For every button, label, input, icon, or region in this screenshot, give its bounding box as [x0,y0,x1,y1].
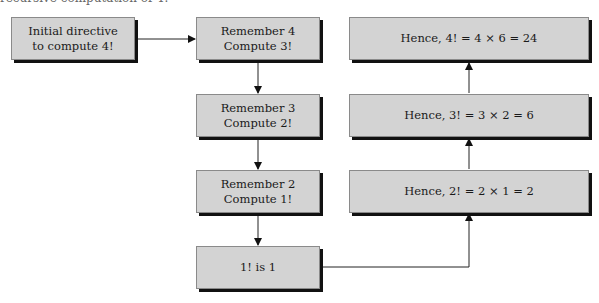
base-case-box: 1! is 1 [196,246,320,289]
result2-box: Hence, 2! = 2 × 1 = 2 [349,170,589,213]
box-line: Compute 3! [221,39,296,54]
remember3-box: Remember 3 Compute 2! [196,94,320,137]
remember2-box: Remember 2 Compute 1! [196,170,320,213]
result4-box: Hence, 4! = 4 × 6 = 24 [349,17,589,60]
box-line: Initial directive [28,24,118,39]
remember4-box: Remember 4 Compute 3! [196,17,320,60]
box-line: to compute 4! [28,39,118,54]
box-line: 1! is 1 [240,260,276,275]
result3-box: Hence, 3! = 3 × 2 = 6 [349,94,589,137]
box-line: Compute 2! [221,116,296,131]
initial-directive-box: Initial directive to compute 4! [11,17,135,60]
box-line: Hence, 3! = 3 × 2 = 6 [404,108,534,123]
box-line: Compute 1! [221,192,296,207]
box-line: Remember 2 [221,177,296,192]
box-line: Remember 3 [221,101,296,116]
box-line: Hence, 4! = 4 × 6 = 24 [401,31,538,46]
arrow-base-to-result2 [322,214,469,267]
box-line: Remember 4 [221,24,296,39]
box-line: Hence, 2! = 2 × 1 = 2 [404,184,534,199]
